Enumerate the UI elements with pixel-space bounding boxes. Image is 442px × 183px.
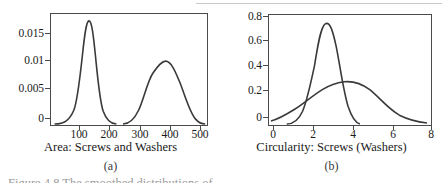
figure-caption-cut: Figure 4.8 The smoothed distributions of (8, 177, 438, 183)
x-tick-label: 400 (155, 128, 185, 140)
x-tick-label: 6 (383, 128, 403, 140)
y-tick-label: 0.01 (24, 55, 44, 66)
y-tick-label: 0.2 (248, 85, 262, 96)
y-tick-label: 0 (256, 112, 262, 123)
figure-container: 0.015 0.01 0.005 0 100 200 300 400 500 (0, 0, 442, 183)
panel-b: 0.8 0.6 0.4 0.2 0 0 2 4 6 8 (221, 0, 442, 183)
x-tick-label: 2 (303, 128, 323, 140)
x-tick-label: 0 (263, 128, 283, 140)
x-tick-label: 8 (421, 128, 441, 140)
panel-a-axis-title: Area: Screws and Washers (0, 140, 221, 154)
panel-b-y-axis: 0.8 0.6 0.4 0.2 0 (221, 0, 262, 183)
x-tick-label: 300 (125, 128, 155, 140)
panel-a: 0.015 0.01 0.005 0 100 200 300 400 500 (0, 0, 221, 183)
x-tick-label: 100 (64, 128, 94, 140)
y-tick-label: 0.6 (248, 35, 262, 46)
y-tick-label: 0.4 (248, 60, 262, 71)
panel-a-density-curves (51, 14, 207, 125)
x-tick-label: 200 (94, 128, 124, 140)
panel-b-plot-area (268, 14, 432, 126)
panel-b-letter: (b) (221, 160, 442, 173)
panel-a-letter: (a) (0, 160, 221, 173)
panel-b-axis-title: Circularity: Screws (Washers) (221, 140, 442, 154)
x-tick-label: 500 (185, 128, 215, 140)
panel-a-y-axis: 0.015 0.01 0.005 0 (0, 0, 44, 183)
x-tick-label: 4 (343, 128, 363, 140)
y-tick-label: 0.015 (19, 28, 44, 39)
panel-b-density-curves (269, 15, 431, 125)
y-tick-label: 0.005 (19, 83, 44, 94)
curve-washers-area (123, 61, 205, 124)
y-tick-label: 0.8 (248, 11, 262, 22)
curve-screws-area (55, 21, 117, 124)
y-tick-label: 0 (38, 113, 44, 124)
curve-screws-circularity (287, 23, 360, 124)
curve-washers-circularity (271, 82, 427, 123)
panel-a-plot-area (50, 13, 208, 126)
